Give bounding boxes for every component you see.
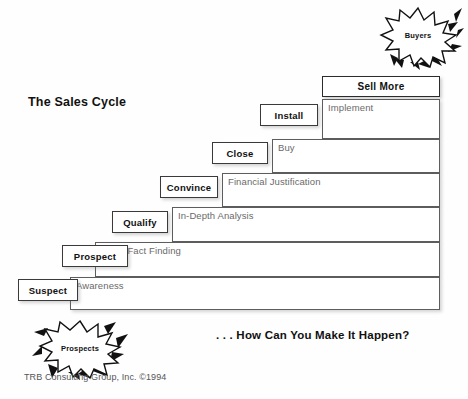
- step-box-buy[interactable]: Buy: [272, 139, 440, 173]
- step-outcome-implement: Implement: [328, 102, 373, 113]
- step-box-awareness[interactable]: Awareness: [70, 277, 440, 310]
- stage-box-convince[interactable]: Convince: [160, 176, 218, 198]
- step-outcome-in-depth-analysis: In-Depth Analysis: [178, 210, 254, 221]
- step-box-basic-fact-finding[interactable]: Basic Fact Finding: [95, 242, 440, 277]
- step-outcome-financial-justification: Financial Justification: [228, 176, 321, 187]
- stage-label-qualify: Qualify: [123, 217, 157, 228]
- step-outcome-buy: Buy: [278, 142, 295, 153]
- sell-more-capstone[interactable]: Sell More: [322, 76, 440, 97]
- stage-box-install[interactable]: Install: [260, 104, 318, 126]
- prospects-burst: Prospects: [28, 318, 132, 380]
- step-outcome-awareness: Awareness: [76, 280, 124, 291]
- sales-cycle-diagram: Buyers Sell More Implement Install Buy C…: [0, 0, 468, 399]
- stage-box-qualify[interactable]: Qualify: [112, 211, 168, 233]
- step-box-financial-justification[interactable]: Financial Justification: [222, 173, 440, 207]
- sell-more-label: Sell More: [357, 81, 404, 92]
- stage-label-prospect: Prospect: [74, 251, 116, 262]
- step-box-in-depth-analysis[interactable]: In-Depth Analysis: [172, 207, 440, 242]
- stage-label-install: Install: [275, 110, 304, 121]
- stage-box-prospect[interactable]: Prospect: [62, 245, 128, 267]
- stage-label-suspect: Suspect: [29, 285, 67, 296]
- page-title: The Sales Cycle: [28, 95, 126, 109]
- stage-label-close: Close: [227, 148, 254, 159]
- stage-box-close[interactable]: Close: [212, 142, 268, 164]
- prospects-burst-label: Prospects: [28, 344, 132, 353]
- tagline: . . . How Can You Make It Happen?: [216, 329, 409, 341]
- buyers-burst-label: Buyers: [372, 31, 464, 40]
- copyright-credit: TRB Consulting Group, Inc. ©1994: [24, 372, 166, 382]
- step-box-implement[interactable]: Implement: [322, 99, 440, 139]
- buyers-burst: Buyers: [372, 4, 464, 70]
- stage-box-suspect[interactable]: Suspect: [18, 279, 78, 301]
- stage-label-convince: Convince: [167, 182, 211, 193]
